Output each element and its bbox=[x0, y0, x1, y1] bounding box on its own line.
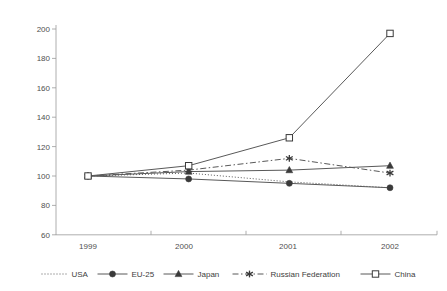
series-line bbox=[88, 158, 390, 176]
data-point-2002 bbox=[387, 185, 393, 191]
plot-series-layer bbox=[85, 30, 394, 191]
x-tick-label-2000: 2000 bbox=[175, 242, 193, 251]
y-tick-label-200: 200 bbox=[37, 25, 51, 34]
series-eu-25 bbox=[85, 173, 393, 191]
legend-label: USA bbox=[72, 270, 89, 279]
data-point-2001 bbox=[286, 135, 292, 141]
series-china bbox=[85, 30, 393, 179]
series-line bbox=[88, 166, 390, 176]
legend-label: EU-25 bbox=[132, 270, 155, 279]
data-point-2001 bbox=[286, 180, 292, 186]
legend-label: China bbox=[395, 270, 416, 279]
y-tick-label-160: 160 bbox=[37, 84, 51, 93]
data-point-2000 bbox=[186, 176, 192, 182]
x-axis-labels: 1999 2000 2001 2002 bbox=[79, 242, 399, 251]
legend-label: Russian Federation bbox=[271, 270, 340, 279]
legend-marker bbox=[372, 271, 378, 277]
legend-label: Japan bbox=[198, 270, 220, 279]
data-point-2002 bbox=[387, 162, 394, 168]
y-tick-label-120: 120 bbox=[37, 143, 51, 152]
y-axis-labels: 200 180 160 140 120 100 80 60 bbox=[37, 25, 51, 240]
legend-item-japan[interactable]: Japan bbox=[164, 270, 220, 279]
data-point-2000 bbox=[185, 163, 191, 169]
legend-marker bbox=[110, 271, 116, 277]
data-point-2002 bbox=[387, 30, 393, 36]
y-axis bbox=[52, 25, 56, 235]
line-chart: 200 180 160 140 120 100 80 60 bbox=[0, 0, 447, 291]
series-line bbox=[88, 176, 390, 188]
y-tick-label-80: 80 bbox=[41, 201, 50, 210]
y-tick-label-100: 100 bbox=[37, 172, 51, 181]
legend-item-usa[interactable]: USA bbox=[42, 270, 89, 279]
x-tick-label-1999: 1999 bbox=[79, 242, 97, 251]
chart-legend: USAEU-25JapanRussian FederationChina bbox=[42, 270, 416, 279]
legend-item-eu-25[interactable]: EU-25 bbox=[98, 270, 155, 279]
series-line bbox=[88, 33, 390, 176]
y-tick-label-60: 60 bbox=[41, 231, 50, 240]
chart-canvas: 200 180 160 140 120 100 80 60 bbox=[0, 0, 447, 291]
x-tick-label-2002: 2002 bbox=[381, 242, 399, 251]
y-tick-label-140: 140 bbox=[37, 113, 51, 122]
y-tick-label-180: 180 bbox=[37, 54, 51, 63]
x-axis bbox=[56, 231, 437, 235]
data-point-1999 bbox=[85, 173, 91, 179]
x-tick-label-2001: 2001 bbox=[279, 242, 297, 251]
legend-item-china[interactable]: China bbox=[361, 270, 416, 279]
legend-item-russian-federation[interactable]: Russian Federation bbox=[233, 270, 340, 279]
